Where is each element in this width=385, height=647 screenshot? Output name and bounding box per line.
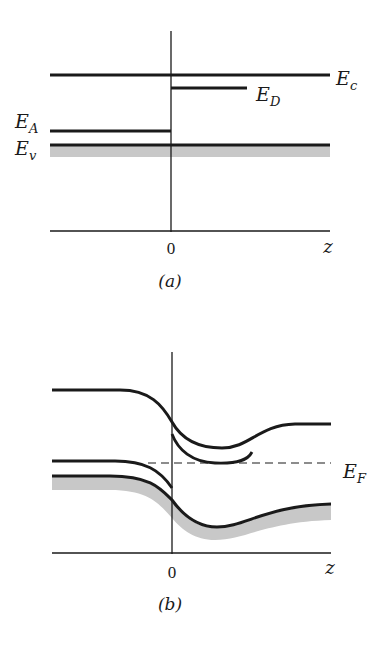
origin-label-a: 0 [167,239,176,258]
panel-a: Ec ED EA Ev 0 z (a) [14,31,358,291]
origin-label-b: 0 [168,563,177,582]
z-label-b: z [324,557,335,578]
label-ea: EA [14,110,38,136]
z-label-a: z [322,236,333,257]
label-ec: Ec [335,67,358,93]
label-ev: Ev [14,137,37,163]
valence-band-shading-a [50,146,330,157]
caption-a: (a) [158,271,181,291]
panel-b: EF 0 z (b) [52,352,367,614]
label-ed: ED [255,83,281,109]
conduction-band-edge-b [52,390,331,448]
label-ef: EF [342,460,367,486]
caption-b: (b) [158,594,182,614]
band-diagram: Ec ED EA Ev 0 z (a) EF 0 z (b) [0,0,385,647]
